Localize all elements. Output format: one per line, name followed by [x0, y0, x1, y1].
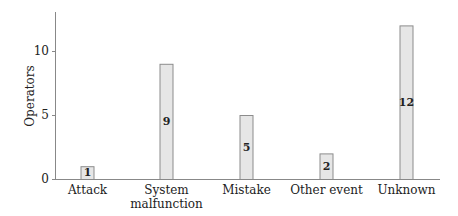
bar-value-label: 5 — [243, 141, 251, 154]
y-tick-label: 10 — [34, 44, 49, 58]
bar-value-label: 12 — [399, 96, 414, 109]
x-tick-label: malfunction — [130, 197, 203, 211]
y-tick-label: 0 — [41, 172, 49, 186]
bar: 5 — [240, 116, 253, 180]
y-tick-label: 5 — [41, 108, 49, 122]
x-tick-label: Mistake — [222, 183, 271, 197]
bar-value-label: 2 — [323, 160, 331, 173]
x-tick-label: System — [144, 183, 189, 197]
x-tick-label: Unknown — [377, 183, 435, 197]
y-ticks-group: 0510 — [34, 44, 56, 186]
x-tick-label: Attack — [67, 183, 108, 197]
bar: 1 — [81, 166, 94, 179]
y-axis-title: Operators — [23, 65, 37, 126]
bar-value-label: 9 — [163, 115, 171, 128]
bar-value-label: 1 — [84, 166, 92, 179]
bar: 9 — [160, 64, 173, 179]
bar-chart: 195212 0510 AttackSystemmalfunctionMista… — [0, 0, 458, 216]
bars-group: 195212 — [81, 26, 414, 180]
bar: 2 — [320, 154, 333, 180]
x-labels-group: AttackSystemmalfunctionMistakeOther even… — [67, 183, 436, 211]
bar: 12 — [399, 26, 414, 180]
x-tick-label: Other event — [290, 183, 363, 197]
